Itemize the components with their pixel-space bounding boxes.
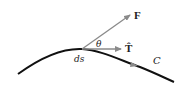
angle-label: θ (96, 39, 102, 49)
curve-label: C (153, 55, 161, 66)
force-vector-arrow (82, 15, 130, 49)
tangent-label: T̂ (125, 42, 133, 54)
force-label: F (134, 9, 141, 21)
arc-element-label: ds (74, 54, 85, 64)
curve-c (18, 49, 174, 82)
line-integral-diagram: F T̂ θ ds C (0, 0, 186, 90)
